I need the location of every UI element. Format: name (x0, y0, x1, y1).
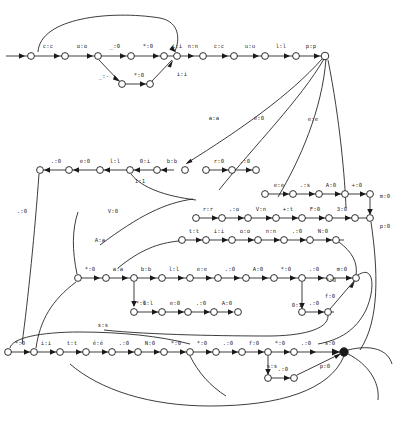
state-node-final[interactable] (340, 348, 348, 356)
state-node[interactable] (161, 53, 168, 60)
state-node[interactable] (187, 275, 194, 282)
state-node[interactable] (62, 53, 69, 60)
state-node[interactable] (219, 215, 226, 222)
edge-label: *:0 (281, 266, 292, 272)
edge-label: m:0 (380, 193, 391, 199)
state-node[interactable] (290, 191, 297, 198)
state-node[interactable] (182, 167, 189, 174)
state-node[interactable] (95, 53, 102, 60)
edge-final-in-right (348, 348, 392, 364)
state-node[interactable] (135, 349, 142, 356)
state-node[interactable] (131, 275, 138, 282)
edge-label: i:i (41, 340, 52, 346)
state-node[interactable] (353, 275, 360, 282)
state-node[interactable] (147, 81, 154, 88)
edge-p0-slant-arrow (334, 354, 341, 360)
state-node[interactable] (37, 167, 44, 174)
edge-label: e:e (308, 116, 319, 122)
edge-label: *:0 (15, 340, 26, 346)
edge-label: 0:i (292, 302, 303, 308)
edge-label: +:0 (352, 182, 363, 188)
state-node[interactable] (83, 349, 90, 356)
state-node[interactable] (159, 309, 166, 316)
edge-label: .:0 (196, 300, 207, 306)
state-node[interactable] (255, 237, 262, 244)
state-node[interactable] (291, 349, 298, 356)
edge-label: i:i (172, 43, 183, 49)
edge-left-descend (22, 174, 39, 344)
state-node[interactable] (215, 275, 222, 282)
state-node[interactable] (203, 237, 210, 244)
state-node[interactable] (342, 191, 349, 198)
state-node[interactable] (367, 215, 374, 222)
state-node[interactable] (66, 167, 73, 174)
state-node[interactable] (231, 53, 238, 60)
edge-detour-mid-arrow (140, 81, 146, 87)
edge-label: p:0 (380, 223, 391, 230)
state-node[interactable] (75, 275, 82, 282)
state-node[interactable] (131, 309, 138, 316)
state-node[interactable] (203, 167, 210, 174)
edge-label: f:0 (325, 293, 336, 299)
state-node[interactable] (57, 349, 64, 356)
edge-arc-top (38, 15, 178, 52)
state-node[interactable] (179, 237, 186, 244)
state-node[interactable] (193, 215, 200, 222)
state-node[interactable] (265, 349, 272, 356)
state-node[interactable] (185, 309, 192, 316)
state-node[interactable] (31, 349, 38, 356)
state-node[interactable] (243, 275, 250, 282)
state-node[interactable] (213, 349, 220, 356)
edge-row5-in-star (73, 212, 78, 274)
state-node[interactable] (326, 215, 333, 222)
state-node[interactable] (200, 53, 207, 60)
edge-label: 1:1 (135, 178, 146, 184)
state-node[interactable] (293, 53, 300, 60)
edge-label: l:l (276, 43, 287, 49)
state-node[interactable] (262, 191, 269, 198)
state-node[interactable] (239, 349, 246, 356)
state-node-hub[interactable] (321, 52, 329, 60)
edge-label: n:n (188, 43, 199, 49)
state-node[interactable] (97, 167, 104, 174)
edge-label: i:i (214, 228, 225, 234)
state-node[interactable] (109, 349, 116, 356)
state-node[interactable] (211, 309, 218, 316)
state-node[interactable] (271, 275, 278, 282)
state-node[interactable] (154, 167, 161, 174)
state-node[interactable] (299, 215, 306, 222)
state-node[interactable] (235, 309, 242, 316)
state-node[interactable] (159, 275, 166, 282)
edge-label: c:c (43, 43, 54, 49)
state-node[interactable] (316, 191, 323, 198)
state-node[interactable] (299, 275, 306, 282)
state-node[interactable] (187, 349, 194, 356)
state-node[interactable] (262, 53, 269, 60)
state-node[interactable] (265, 375, 272, 382)
state-node[interactable] (281, 237, 288, 244)
state-node[interactable] (352, 215, 359, 222)
edge-label: .:0 (17, 208, 28, 214)
state-node[interactable] (128, 53, 135, 60)
state-node[interactable] (229, 237, 236, 244)
state-node[interactable] (174, 53, 181, 60)
edge-curve-aa-arrow (186, 159, 193, 164)
state-node[interactable] (119, 81, 126, 88)
edge-label: *:0 (275, 340, 286, 346)
state-node[interactable] (367, 191, 374, 198)
state-node[interactable] (161, 349, 168, 356)
state-node[interactable] (229, 167, 236, 174)
state-node[interactable] (291, 375, 298, 382)
state-node[interactable] (253, 167, 260, 174)
state-node[interactable] (127, 167, 134, 174)
state-node[interactable] (28, 53, 35, 60)
state-node[interactable] (103, 275, 110, 282)
state-node[interactable] (245, 215, 252, 222)
state-node[interactable] (273, 215, 280, 222)
edge-ss-arrow (265, 369, 271, 375)
state-node[interactable] (333, 237, 340, 244)
state-node[interactable] (299, 309, 306, 316)
state-node[interactable] (325, 309, 332, 316)
state-node[interactable] (5, 349, 12, 356)
state-node[interactable] (307, 237, 314, 244)
